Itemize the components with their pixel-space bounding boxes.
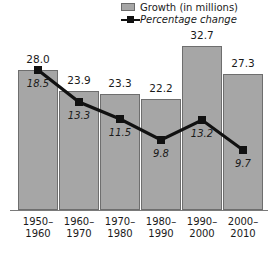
percentage-value-label: 9.8 [141,148,181,159]
bar-value-label: 23.9 [59,75,99,86]
legend-label-growth: Growth (in millions) [140,2,238,13]
x-tick-2000-2010: 2000– 2010 [217,216,269,240]
x-tick-line1: 2000– [217,216,269,228]
gray-square-icon [121,3,135,11]
bar-value-label: 28.0 [18,54,58,65]
legend-label-percentage: Percentage change [140,14,237,25]
bar-value-label: 32.7 [182,30,222,41]
percentage-value-label: 13.3 [59,110,99,121]
legend-item-growth: Growth (in millions) [121,1,271,13]
legend-item-percentage: Percentage change [121,13,271,25]
x-axis-labels: 1950– 1960 1960– 1970 1970– 1980 1980– 1… [0,216,275,254]
percentage-value-label: 13.2 [182,128,222,139]
bar-value-label: 27.3 [223,58,263,69]
percentage-value-label: 18.5 [18,78,58,89]
percentage-value-label: 11.5 [100,127,140,138]
growth-percentage-chart: Growth (in millions) Percentage change 2… [0,0,275,254]
bar-2000-2010 [223,74,263,210]
chart-legend: Growth (in millions) Percentage change [121,1,271,25]
bar-1960-1970 [59,91,99,210]
bar-value-label: 22.2 [141,83,181,94]
bar-1950-1960 [18,70,58,210]
bar-value-label: 23.3 [100,78,140,89]
percentage-value-label: 9.7 [223,158,263,169]
plot-area: 28.0 23.9 23.3 22.2 32.7 27.3 18.5 13.3 … [0,28,275,214]
x-tick-line2: 2010 [217,228,269,240]
line-with-square-marker-icon [121,15,140,24]
bar-1970-1980 [100,94,140,210]
x-axis-baseline [10,210,268,211]
